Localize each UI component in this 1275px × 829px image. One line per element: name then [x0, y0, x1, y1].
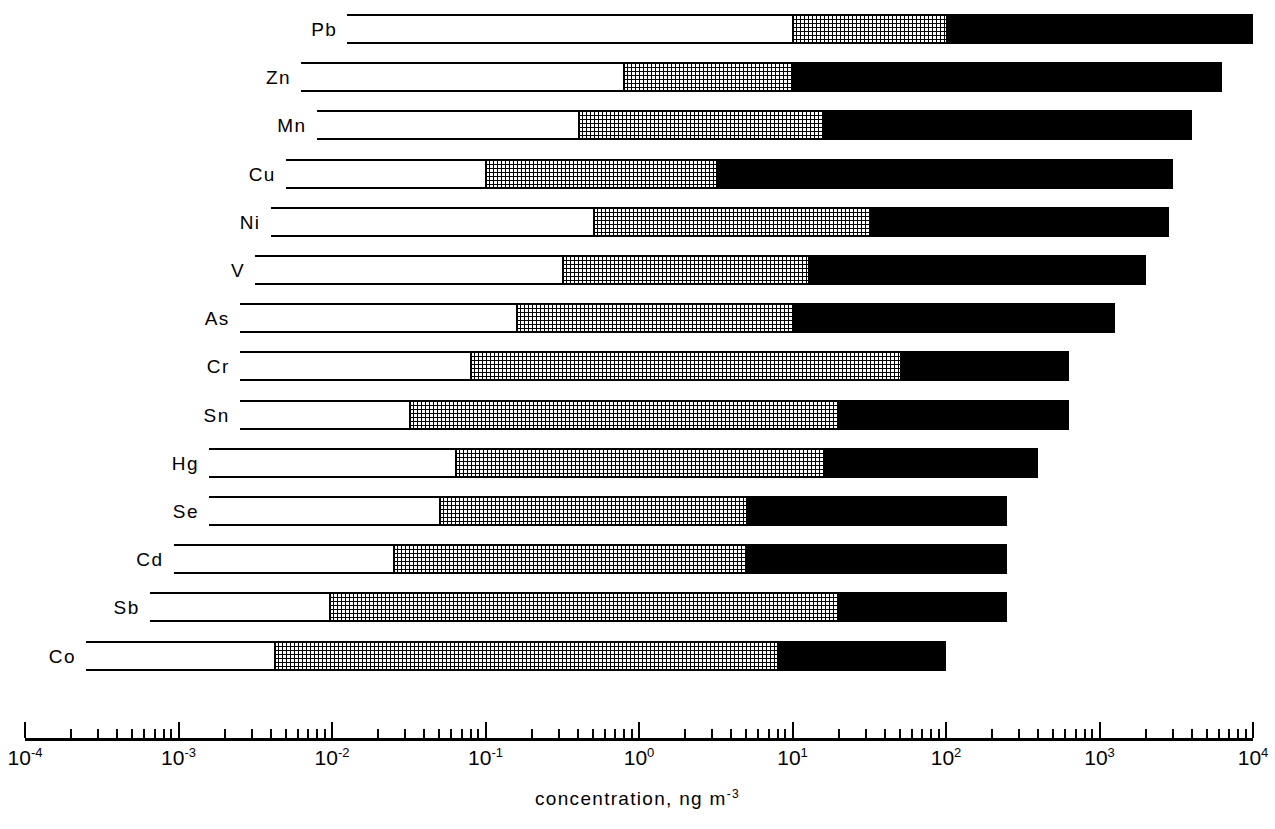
bar-segment-urban [946, 16, 1253, 42]
bar-track [271, 207, 1169, 237]
tick-mantissa: 10 [8, 746, 31, 769]
bar-segment-rural [393, 546, 746, 572]
bar-segment-divider [823, 112, 825, 138]
bar-segment-remote [240, 305, 516, 331]
axis-tick-minor [1064, 729, 1066, 738]
axis-tick-minor [316, 729, 318, 738]
tick-exponent: -3 [184, 745, 196, 760]
bar-row: Ni [0, 207, 1275, 239]
bar-segment-divider [274, 643, 276, 669]
bar-label-mn: Mn [251, 115, 307, 137]
axis-tick-minor [631, 729, 633, 738]
bar-track [347, 14, 1253, 44]
axis-tick-label: 10-3 [161, 746, 196, 770]
tick-exponent: -2 [338, 745, 350, 760]
axis-tick-minor [1245, 729, 1247, 738]
bar-segment-divider [900, 353, 902, 379]
bar-segment-divider [393, 546, 395, 572]
axis-tick-minor [131, 729, 133, 738]
axis-tick-minor [377, 729, 379, 738]
bar-segment-remote [86, 643, 274, 669]
bar-label-cd: Cd [108, 549, 164, 571]
bar-segment-divider [578, 112, 580, 138]
axis-tick-minor [1218, 729, 1220, 738]
axis-tick-major [945, 722, 947, 738]
axis-tick-minor [768, 729, 770, 738]
bar-segment-rural [274, 643, 777, 669]
bar-segment-divider [838, 402, 840, 428]
axis-tick-minor [558, 729, 560, 738]
bar-row: Pb [0, 14, 1275, 46]
axis-tick-minor [450, 729, 452, 738]
tick-exponent: 4 [1261, 745, 1268, 760]
axis-tick-minor [1052, 729, 1054, 738]
axis-tick-minor [170, 729, 172, 738]
axis-tick-minor [614, 729, 616, 738]
x-axis: 10-410-310-210-1100101102103104 concentr… [0, 700, 1275, 829]
axis-tick-minor [784, 729, 786, 738]
tick-mantissa: 10 [931, 746, 954, 769]
axis-tick-major [1099, 722, 1101, 738]
axis-tick-minor [730, 729, 732, 738]
bar-segment-urban [838, 594, 1007, 620]
bar-label-sb: Sb [84, 597, 140, 619]
bar-track [255, 255, 1145, 285]
bar-track [317, 110, 1192, 140]
bar-track [240, 303, 1115, 333]
bar-segment-remote [150, 594, 329, 620]
bar-segment-remote [271, 209, 593, 235]
bar-label-as: As [174, 308, 230, 330]
axis-line [25, 738, 1253, 741]
axis-tick-label: 10-1 [468, 746, 503, 770]
bar-segment-urban [808, 257, 1146, 283]
bar-segment-divider [439, 498, 441, 524]
bar-segment-urban [777, 643, 946, 669]
axis-tick-minor [154, 729, 156, 738]
axis-tick-major [485, 722, 487, 738]
axis-tick-minor [592, 729, 594, 738]
axis-tick-minor [1075, 729, 1077, 738]
bar-track [209, 448, 1038, 478]
bar-segment-divider [455, 450, 457, 476]
bar-track [240, 400, 1069, 430]
axis-tick-minor [470, 729, 472, 738]
axis-tick-minor [438, 729, 440, 738]
axis-tick-major [178, 722, 180, 738]
bar-segment-divider [792, 64, 794, 90]
bar-segment-divider [792, 305, 794, 331]
tick-mantissa: 10 [468, 746, 491, 769]
axis-tick-minor [865, 729, 867, 738]
axis-tick-major [24, 722, 26, 738]
bar-segment-divider [792, 16, 794, 42]
axis-tick-minor [1206, 729, 1208, 738]
axis-title-text: concentration, ng m [535, 788, 727, 809]
bar-segment-divider [470, 353, 472, 379]
axis-tick-minor [404, 729, 406, 738]
axis-tick-minor [1237, 729, 1239, 738]
bar-segment-divider [746, 498, 748, 524]
axis-tick-minor [1228, 729, 1230, 738]
axis-tick-minor [838, 729, 840, 738]
bar-segment-urban [746, 498, 1007, 524]
axis-tick-minor [251, 729, 253, 738]
bar-segment-divider [777, 643, 779, 669]
bar-segment-urban [792, 305, 1114, 331]
bar-track [240, 351, 1069, 381]
bar-row: Sb [0, 592, 1275, 624]
axis-tick-minor [1172, 729, 1174, 738]
bar-track [301, 62, 1222, 92]
bar-segment-remote [317, 112, 578, 138]
bar-segment-remote [286, 161, 486, 187]
axis-tick-minor [1145, 729, 1147, 738]
axis-tick-minor [297, 729, 299, 738]
bar-track [209, 496, 1007, 526]
bar-segment-urban [716, 161, 1173, 187]
axis-tick-minor [116, 729, 118, 738]
bar-segment-remote [174, 546, 394, 572]
axis-tick-minor [991, 729, 993, 738]
axis-tick-minor [577, 729, 579, 738]
bar-segment-urban [746, 546, 1007, 572]
bar-row: Cr [0, 351, 1275, 383]
bar-segment-rural [792, 16, 946, 42]
bar-segment-divider [838, 594, 840, 620]
